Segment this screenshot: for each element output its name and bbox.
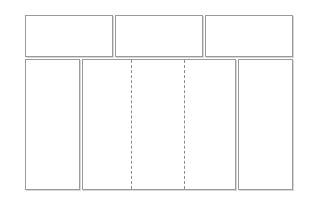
column-divider-2: [184, 60, 185, 189]
main-content-panel: [82, 59, 236, 190]
column-divider-1: [131, 60, 132, 189]
top-panel-2: [115, 15, 203, 57]
top-panel-1: [25, 15, 113, 57]
right-sidebar-panel: [238, 59, 293, 190]
left-sidebar-panel: [25, 59, 80, 190]
top-panel-3: [205, 15, 293, 57]
